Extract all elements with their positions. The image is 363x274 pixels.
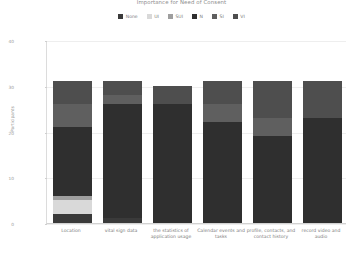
bar-segment-vi[interactable] <box>53 81 92 104</box>
x-tick-label: profile, contacts, and contact history <box>246 228 296 239</box>
y-tick-mark <box>45 224 48 225</box>
legend-label: N <box>200 14 203 19</box>
bar-segment-ui[interactable] <box>53 200 92 214</box>
gridline <box>47 87 346 88</box>
y-axis-label: Participants <box>10 106 15 132</box>
legend-item-ui[interactable]: UI <box>147 14 159 19</box>
chart-legend: NoneUISUINSIVI <box>0 14 363 19</box>
legend-label: SUI <box>175 14 183 19</box>
bar-segment-si[interactable] <box>103 95 142 104</box>
legend-swatch-icon <box>168 14 173 19</box>
x-tick-label: vital sign data <box>96 228 146 234</box>
bar-stack[interactable] <box>103 81 142 223</box>
bar-stack[interactable] <box>303 81 342 223</box>
bar-segment-si[interactable] <box>53 104 92 127</box>
bar-stack[interactable] <box>253 81 292 223</box>
legend-item-n[interactable]: N <box>192 14 203 19</box>
legend-swatch-icon <box>118 14 123 19</box>
x-tick-label: record video and audio <box>296 228 346 239</box>
y-tick-label: 0 <box>0 222 14 227</box>
y-tick-mark <box>45 178 48 179</box>
legend-swatch-icon <box>192 14 197 19</box>
bar-segment-vi[interactable] <box>153 86 192 104</box>
x-tick-label: the statistics of application usage <box>146 228 196 239</box>
legend-label: SI <box>220 14 224 19</box>
y-tick-mark <box>45 41 48 42</box>
legend-item-sui[interactable]: SUI <box>168 14 183 19</box>
bar-stack[interactable] <box>203 81 242 223</box>
legend-label: UI <box>154 14 159 19</box>
bar-segment-n[interactable] <box>153 104 192 223</box>
y-tick-mark <box>45 87 48 88</box>
chart-figure: Importance for Need of Consent NoneUISUI… <box>0 0 363 274</box>
bar-segment-vi[interactable] <box>303 81 342 118</box>
x-tick-label: Calendar events and tasks <box>196 228 246 239</box>
y-tick-label: 40 <box>0 39 14 44</box>
bar-segment-si[interactable] <box>253 118 292 136</box>
bar-segment-vi[interactable] <box>203 81 242 104</box>
bar-segment-n[interactable] <box>103 104 142 218</box>
bar-segment-n[interactable] <box>53 127 92 196</box>
plot-area <box>46 41 346 224</box>
legend-swatch-icon <box>233 14 238 19</box>
bar-segment-vi[interactable] <box>103 81 142 95</box>
legend-item-si[interactable]: SI <box>212 14 224 19</box>
bar-segment-si[interactable] <box>203 104 242 122</box>
bar-stack[interactable] <box>53 81 92 223</box>
legend-item-none[interactable]: None <box>118 14 138 19</box>
legend-label: None <box>126 14 138 19</box>
bar-segment-vi[interactable] <box>253 81 292 118</box>
gridline <box>47 41 346 42</box>
legend-item-vi[interactable]: VI <box>233 14 245 19</box>
gridline <box>47 178 346 179</box>
y-tick-mark <box>45 133 48 134</box>
legend-swatch-icon <box>147 14 152 19</box>
y-tick-label: 30 <box>0 84 14 89</box>
legend-swatch-icon <box>212 14 217 19</box>
gridline <box>47 224 346 225</box>
y-tick-label: 10 <box>0 176 14 181</box>
chart-title: Importance for Need of Consent <box>0 0 363 5</box>
x-tick-label: Location <box>46 228 96 234</box>
bar-segment-n[interactable] <box>253 136 292 223</box>
bar-segment-n[interactable] <box>303 118 342 223</box>
bar-segment-n[interactable] <box>203 122 242 223</box>
gridline <box>47 133 346 134</box>
bar-segment-none[interactable] <box>53 214 92 223</box>
bar-segment-none[interactable] <box>103 218 142 223</box>
legend-label: VI <box>240 14 245 19</box>
bar-stack[interactable] <box>153 86 192 223</box>
